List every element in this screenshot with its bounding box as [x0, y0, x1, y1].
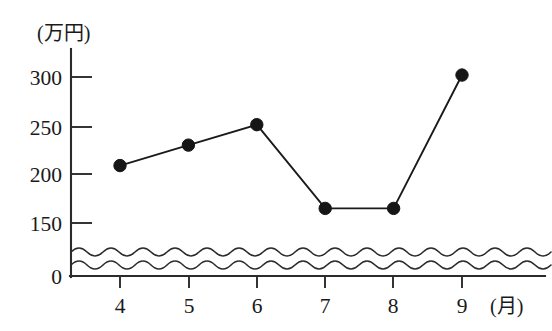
y-axis-tick-labels: 300 250 200 150 0 [30, 66, 62, 289]
axis-break-wave [71, 248, 551, 269]
chart-canvas: (万円) 300 250 200 150 0 [0, 0, 552, 331]
data-series-markers [114, 69, 468, 215]
y-axis-unit-label: (万円) [37, 22, 90, 45]
x-tick-label-5: 5 [184, 294, 195, 318]
y-axis-ticks [71, 77, 92, 223]
y-tick-label-300: 300 [30, 66, 62, 90]
y-tick-label-250: 250 [30, 116, 62, 140]
line-chart-figure: (万円) 300 250 200 150 0 [0, 0, 552, 331]
x-tick-label-9: 9 [457, 294, 468, 318]
x-tick-label-6: 6 [252, 294, 263, 318]
data-point-9 [456, 69, 468, 81]
x-axis-unit-label: (月) [490, 295, 523, 318]
break-wave-lower [71, 261, 551, 269]
data-point-4 [114, 159, 126, 171]
data-series-line [120, 75, 462, 208]
y-tick-label-200: 200 [30, 163, 62, 187]
y-tick-label-150: 150 [30, 212, 62, 236]
x-tick-label-8: 8 [388, 294, 399, 318]
x-tick-label-4: 4 [115, 294, 126, 318]
x-tick-label-7: 7 [320, 294, 331, 318]
x-axis-tick-labels: 4 5 6 7 8 9 [115, 294, 468, 318]
data-point-5 [182, 139, 194, 151]
data-point-7 [319, 202, 331, 214]
axes-group [70, 49, 545, 277]
data-point-8 [387, 202, 399, 214]
x-axis-ticks [120, 276, 462, 288]
break-wave-upper [71, 248, 551, 256]
data-point-6 [251, 118, 263, 130]
y-tick-label-0: 0 [51, 265, 62, 289]
